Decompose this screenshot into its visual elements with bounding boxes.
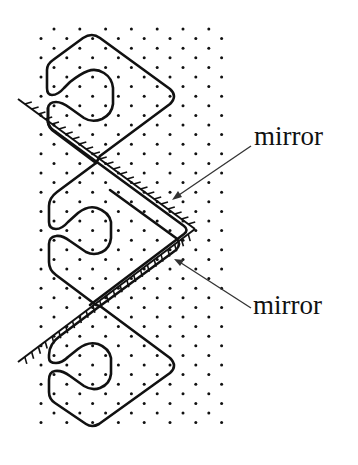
upper-mirror-label: mirror	[254, 123, 323, 150]
upper-mirror-arrow	[172, 146, 251, 200]
upper-mirror	[18, 99, 195, 229]
mirror-orbit-diagram	[0, 0, 358, 465]
middle-orbit-loop	[49, 163, 179, 306]
top-orbit-loop	[47, 35, 174, 163]
lower-mirror-arrow	[174, 259, 251, 308]
lower-mirror-label: mirror	[253, 292, 322, 319]
magnetic-field-dots	[40, 28, 224, 425]
